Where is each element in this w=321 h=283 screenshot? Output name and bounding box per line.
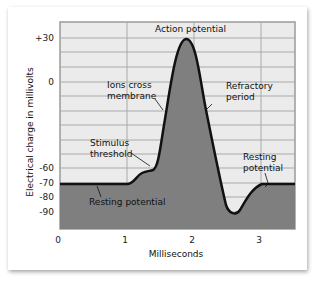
- y-tick-minus70: -70: [39, 178, 54, 188]
- label-stimulus-line2: threshold: [90, 149, 132, 159]
- label-resting-right-line1: Resting: [243, 152, 277, 162]
- y-tick-plus30: +30: [35, 33, 54, 43]
- x-tick-0: 0: [55, 235, 61, 245]
- y-tick-minus60: -60: [39, 163, 54, 173]
- y-tick-minus80: -80: [39, 192, 54, 202]
- y-tick-0: 0: [48, 77, 54, 87]
- label-resting-right-line2: potential: [243, 163, 283, 173]
- y-axis-title: Electrical charge in millivolts: [25, 67, 35, 197]
- label-stimulus-line1: Stimulus: [90, 138, 129, 148]
- x-axis-title: Milliseconds: [149, 249, 204, 259]
- x-tick-3: 3: [256, 235, 262, 245]
- label-refractory-line1: Refractory: [226, 81, 273, 91]
- label-ions-cross-line2: membrane: [107, 91, 157, 101]
- label-action-potential: Action potential: [155, 24, 226, 34]
- label-refractory-line2: period: [226, 92, 255, 102]
- x-tick-1: 1: [122, 235, 128, 245]
- label-resting-potential-left: Resting potential: [89, 197, 165, 207]
- label-ions-cross-line1: Ions cross: [107, 80, 152, 90]
- x-tick-2: 2: [189, 235, 195, 245]
- action-potential-chart: Action potential Ions cross membrane Ref…: [0, 0, 321, 283]
- y-tick-minus90: -90: [39, 207, 54, 217]
- y-axis-ticks: +30 0 -60 -70 -80 -90: [35, 33, 54, 217]
- x-axis-ticks: 0 1 2 3: [55, 235, 262, 245]
